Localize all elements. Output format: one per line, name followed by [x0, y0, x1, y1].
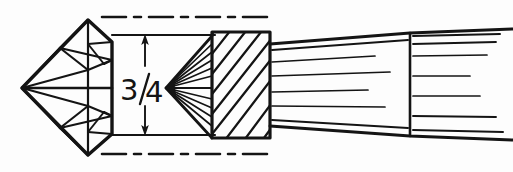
dimension-numerator: 3 [120, 73, 138, 107]
handle-grain-line-12 [413, 116, 496, 117]
handle-grain-line-5 [272, 106, 385, 107]
dimension-denominator: 4 [145, 75, 163, 109]
technical-illustration: 3 4 [0, 0, 513, 172]
handle-grain-line-9 [413, 55, 487, 56]
illustration-canvas: 3 4 [0, 0, 513, 172]
